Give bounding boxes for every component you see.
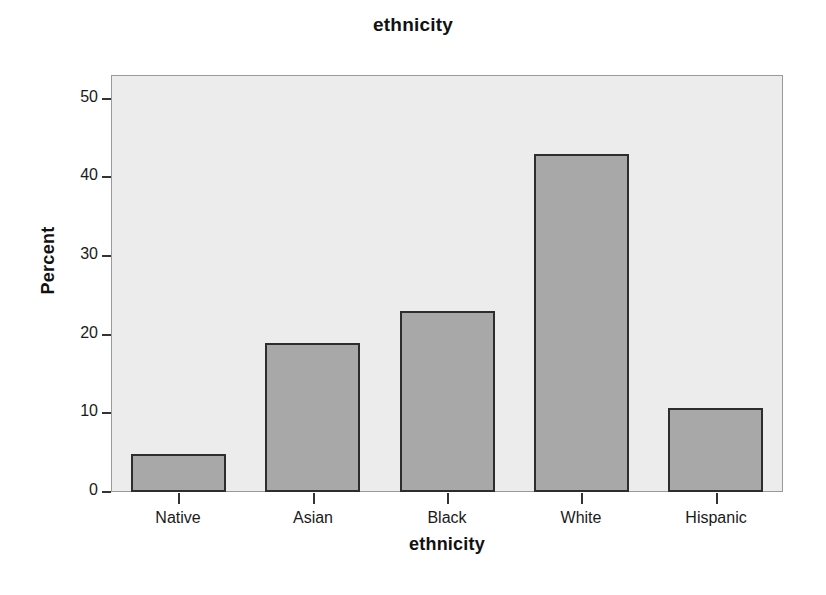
x-axis-title: ethnicity xyxy=(111,534,783,555)
y-tick-label: 40 xyxy=(80,166,98,184)
x-tick-mark xyxy=(313,493,315,504)
y-tick-mark xyxy=(102,491,111,493)
x-tick-label-native: Native xyxy=(155,509,200,527)
y-tick-mark xyxy=(102,334,111,336)
x-tick-mark xyxy=(447,493,449,504)
y-tick-label: 10 xyxy=(80,402,98,420)
chart-figure: ethnicity 01020304050 NativeAsianBlackWh… xyxy=(0,0,826,595)
y-tick-mark xyxy=(102,412,111,414)
y-tick-mark xyxy=(102,98,111,100)
chart-title: ethnicity xyxy=(0,14,826,36)
x-tick-mark xyxy=(581,493,583,504)
y-tick-label: 30 xyxy=(80,245,98,263)
x-tick-label-asian: Asian xyxy=(293,509,333,527)
bar-native[interactable] xyxy=(131,454,226,492)
bar-hispanic[interactable] xyxy=(668,408,763,492)
y-tick-label: 20 xyxy=(80,324,98,342)
x-tick-label-white: White xyxy=(561,509,602,527)
y-tick-mark xyxy=(102,176,111,178)
x-tick-mark xyxy=(716,493,718,504)
y-tick-label: 0 xyxy=(89,481,98,499)
bar-black[interactable] xyxy=(400,311,495,492)
x-tick-label-black: Black xyxy=(427,509,466,527)
y-axis-title: Percent xyxy=(38,201,59,321)
x-tick-label-hispanic: Hispanic xyxy=(685,509,746,527)
y-tick-label: 50 xyxy=(80,88,98,106)
bar-white[interactable] xyxy=(534,154,629,492)
x-tick-mark xyxy=(178,493,180,504)
bar-asian[interactable] xyxy=(265,343,360,492)
y-tick-mark xyxy=(102,255,111,257)
